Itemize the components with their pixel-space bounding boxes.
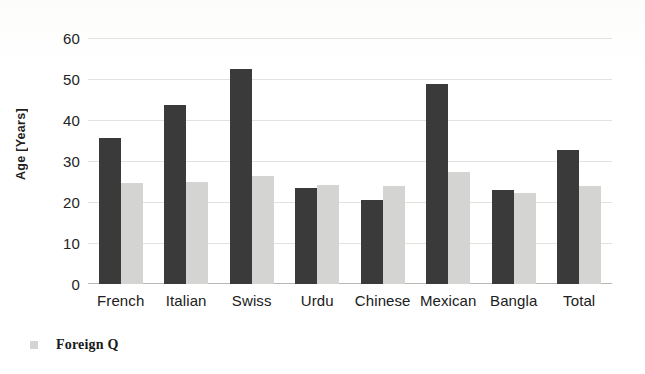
x-tick-label-bangla: Bangla — [490, 292, 537, 309]
x-tick-label-total: Total — [563, 292, 595, 309]
y-axis-title: Age [Years] — [14, 108, 32, 180]
y-tick-label-50: 50 — [63, 71, 80, 88]
bar-urdu-foreign-q[interactable] — [317, 185, 339, 284]
bar-italian-primary[interactable] — [164, 105, 186, 284]
y-tick-label-20: 20 — [63, 194, 80, 211]
y-tick-label-60: 60 — [63, 30, 80, 47]
x-tick-label-chinese: Chinese — [355, 292, 411, 309]
x-tick-label-italian: Italian — [166, 292, 207, 309]
bar-group-chinese — [350, 38, 416, 284]
bar-chinese-foreign-q[interactable] — [383, 186, 405, 284]
bar-swiss-primary[interactable] — [230, 69, 252, 284]
bar-total-foreign-q[interactable] — [579, 186, 601, 284]
y-axis-tick-labels: 60 50 40 30 20 10 0 — [40, 0, 84, 374]
bar-bangla-primary[interactable] — [492, 190, 514, 284]
legend-label-foreign-q[interactable]: Foreign Q — [56, 337, 119, 353]
bar-group-french — [88, 38, 154, 284]
x-tick-label-mexican: Mexican — [420, 292, 477, 309]
x-tick-label-urdu: Urdu — [301, 292, 334, 309]
bar-chart-figure: Age [Years] 60 50 40 30 20 10 0 — [0, 0, 645, 374]
x-tick-label-french: French — [97, 292, 144, 309]
bar-french-primary[interactable] — [99, 138, 121, 284]
bar-total-primary[interactable] — [557, 150, 579, 284]
bar-group-bangla — [481, 38, 547, 284]
legend-swatch-icon — [30, 341, 38, 349]
bar-group-total — [547, 38, 613, 284]
plot-area — [88, 38, 612, 284]
bar-mexican-foreign-q[interactable] — [448, 172, 470, 284]
bar-group-urdu — [285, 38, 351, 284]
bar-group-mexican — [416, 38, 482, 284]
y-tick-label-10: 10 — [63, 235, 80, 252]
y-tick-label-0: 0 — [71, 276, 80, 293]
bar-urdu-primary[interactable] — [295, 188, 317, 284]
chart-legend: Foreign Q — [30, 337, 119, 353]
x-tick-label-swiss: Swiss — [232, 292, 272, 309]
bar-group-swiss — [219, 38, 285, 284]
y-tick-label-30: 30 — [63, 153, 80, 170]
x-axis-tick-labels: French Italian Swiss Urdu Chinese Mexica… — [88, 292, 612, 318]
bar-chinese-primary[interactable] — [361, 200, 383, 284]
bar-french-foreign-q[interactable] — [121, 183, 143, 284]
bar-swiss-foreign-q[interactable] — [252, 176, 274, 284]
bar-mexican-primary[interactable] — [426, 84, 448, 284]
bar-group-italian — [154, 38, 220, 284]
y-tick-label-40: 40 — [63, 112, 80, 129]
bar-italian-foreign-q[interactable] — [186, 182, 208, 285]
bar-bangla-foreign-q[interactable] — [514, 193, 536, 284]
